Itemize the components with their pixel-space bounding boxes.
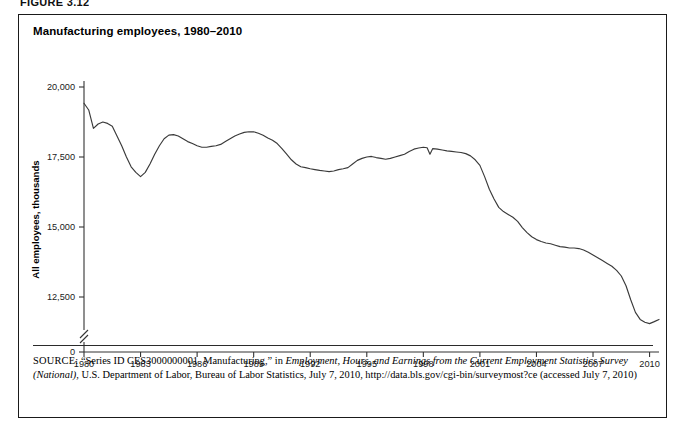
y-axis-title: All employees, thousands — [30, 160, 41, 278]
figure-box: Manufacturing employees, 1980–2010 012,5… — [18, 14, 667, 418]
series-line-0 — [84, 103, 659, 323]
axis-titles: MonthAll employees, thousands — [30, 160, 386, 370]
y-tick-label: 20,000 — [47, 82, 75, 92]
source-note: SOURCE: “Series ID CES3000000001. Manufa… — [33, 354, 658, 381]
figure-number-label: FIGURE 3.12 — [20, 0, 89, 8]
figure-root: FIGURE 3.12 Manufacturing employees, 198… — [0, 0, 687, 429]
source-text-before: “Series ID CES3000000001. Manufacturing,… — [78, 355, 285, 366]
source-text-after: , U.S. Department of Labor, Bureau of La… — [76, 369, 637, 380]
chart-plot-area: 012,50015,00017,50020,000 19801983198619… — [19, 55, 665, 370]
line-chart-svg: 012,50015,00017,50020,000 19801983198619… — [19, 55, 665, 370]
figure-title: Manufacturing employees, 1980–2010 — [33, 25, 242, 37]
source-label: SOURCE: — [33, 355, 78, 366]
y-axis: 012,50015,00017,50020,000 — [47, 81, 88, 357]
y-tick-label: 15,000 — [47, 222, 75, 232]
y-tick-label: 17,500 — [47, 152, 75, 162]
source-divider — [33, 345, 653, 346]
y-tick-label: 12,500 — [47, 292, 75, 302]
data-series-group — [84, 103, 659, 323]
